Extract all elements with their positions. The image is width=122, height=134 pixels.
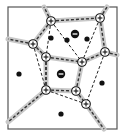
plus-node-n1 [47, 17, 56, 26]
plus-node-n4 [42, 53, 51, 62]
plus-node-n9 [82, 100, 91, 109]
site-dot [48, 35, 53, 40]
site-dot [16, 71, 21, 76]
plus-node-n2 [96, 14, 105, 23]
plus-node-n5 [78, 58, 87, 67]
plus-node-n3 [29, 40, 38, 49]
plus-node-n6 [101, 48, 110, 57]
voronoi-diagram [0, 0, 122, 134]
site-dot [99, 80, 104, 85]
minus-charge [71, 30, 79, 38]
plus-node-n8 [72, 87, 81, 96]
diagram-canvas [0, 0, 122, 134]
site-dot [84, 36, 89, 41]
site-dot [64, 37, 69, 42]
site-dot [58, 111, 63, 116]
plus-node-n7 [42, 86, 51, 95]
minus-charge [57, 70, 65, 78]
